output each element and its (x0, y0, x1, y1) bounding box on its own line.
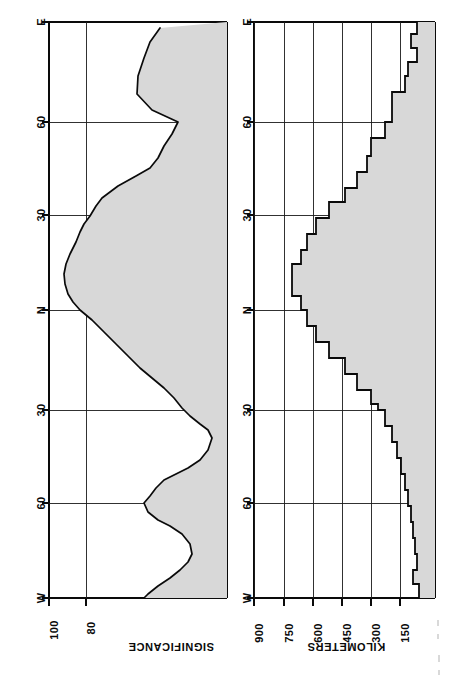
significance-area (64, 22, 227, 598)
sig-dir-tick-n: N (36, 306, 47, 314)
sig-dir-tick-30w: 30 (36, 404, 47, 417)
scan-artifact (437, 620, 439, 626)
km-val-tick-750: 750 (284, 623, 295, 642)
km-val-tick-600: 600 (313, 623, 324, 642)
km-val-tick-900: 900 (254, 623, 265, 642)
km-dir-tick-30w: 30 (242, 404, 253, 417)
km-dir-tick-60w: 60 (242, 497, 253, 510)
km-val-tick-150: 150 (400, 623, 411, 642)
kilometers-axis-title: KILOMETERS (307, 641, 385, 653)
figure-canvas: E 60 30 N 30 60 W 100 80 SIGNIFICANCE (0, 0, 454, 679)
sig-val-tick-100: 100 (49, 620, 60, 639)
scan-artifact (438, 655, 440, 662)
significance-plot (40, 6, 240, 616)
sig-dir-tick-60e: 60 (36, 116, 47, 129)
km-val-tick-450: 450 (342, 623, 353, 642)
sig-dir-tick-30e: 30 (36, 209, 47, 222)
kilometers-plot (245, 6, 450, 616)
sig-dir-tick-60w: 60 (36, 497, 47, 510)
kilometers-histogram-area (292, 22, 435, 598)
km-dir-tick-30e: 30 (242, 209, 253, 222)
scan-artifact (437, 634, 439, 639)
km-dir-tick-e: E (242, 18, 253, 26)
significance-axis-title: SIGNIFICANCE (128, 641, 214, 653)
sig-dir-tick-e: E (36, 18, 47, 26)
km-val-tick-300: 300 (371, 623, 382, 642)
sig-dir-tick-w: W (36, 593, 47, 604)
km-dir-tick-n: N (242, 306, 253, 314)
km-dir-tick-60e: 60 (242, 116, 253, 129)
sig-val-tick-80: 80 (86, 622, 97, 635)
scan-artifact (438, 670, 440, 675)
km-dir-tick-w: W (242, 593, 253, 604)
